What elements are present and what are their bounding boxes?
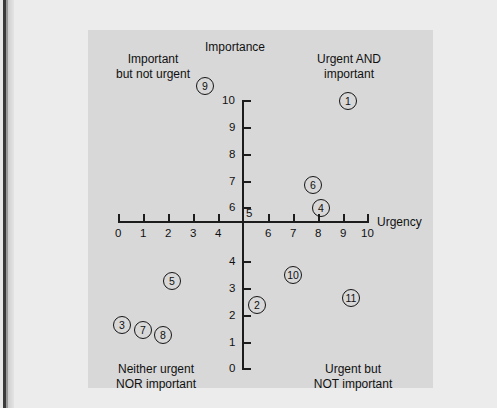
data-point-8[interactable]: 8	[154, 326, 172, 344]
x-tick-label-3: 3	[190, 228, 196, 240]
y-tick-10	[243, 100, 251, 102]
x-tick-label-4: 4	[215, 228, 221, 240]
x-tick-9	[343, 214, 345, 222]
x-tick-label-6: 6	[265, 228, 271, 240]
x-tick-label-2: 2	[165, 228, 171, 240]
y-tick-3	[243, 288, 251, 290]
y-axis-line	[242, 100, 244, 370]
x-tick-1	[143, 214, 145, 222]
scatter-plot: 0 1 2 3 4 6 7 8 9 10 10 9 8 7 6 4 3 2 1 …	[0, 0, 497, 408]
x-tick-label-7: 7	[290, 228, 296, 240]
y-tick-0	[243, 368, 251, 370]
x-tick-label-1: 1	[140, 228, 146, 240]
origin-label-5: 5	[246, 208, 252, 220]
data-point-10[interactable]: 10	[284, 266, 302, 284]
data-point-6[interactable]: 6	[304, 176, 322, 194]
quadrant-label-bottom-left: Neither urgent NOR important	[98, 362, 214, 391]
x-tick-label-10: 10	[361, 228, 374, 240]
quadrant-label-top-left: Important but not urgent	[98, 52, 208, 81]
x-tick-6	[268, 214, 270, 222]
data-point-7[interactable]: 7	[134, 321, 152, 339]
y-tick-label-4: 4	[229, 256, 235, 268]
x-tick-7	[293, 214, 295, 222]
y-tick-7	[243, 181, 251, 183]
x-tick-0	[118, 214, 120, 222]
data-point-3[interactable]: 3	[113, 316, 131, 334]
y-axis-title: Importance	[205, 41, 265, 53]
y-tick-label-6: 6	[229, 202, 235, 214]
y-tick-label-9: 9	[229, 122, 235, 134]
figure-page: 0 1 2 3 4 6 7 8 9 10 10 9 8 7 6 4 3 2 1 …	[0, 0, 497, 408]
x-axis-title: Urgency	[377, 216, 422, 228]
y-tick-label-2: 2	[229, 310, 235, 322]
x-tick-label-0: 0	[115, 228, 121, 240]
data-point-11[interactable]: 11	[342, 289, 360, 307]
x-tick-label-9: 9	[340, 228, 346, 240]
data-point-1[interactable]: 1	[339, 92, 357, 110]
y-tick-label-1: 1	[229, 337, 235, 349]
y-tick-8	[243, 154, 251, 156]
x-tick-10	[367, 214, 369, 222]
y-tick-label-0: 0	[229, 363, 235, 375]
data-point-4[interactable]: 4	[312, 199, 330, 217]
y-tick-label-8: 8	[229, 149, 235, 161]
y-tick-9	[243, 127, 251, 129]
data-point-2[interactable]: 2	[248, 296, 266, 314]
x-tick-4	[218, 214, 220, 222]
y-tick-label-10: 10	[222, 95, 235, 107]
y-tick-4	[243, 261, 251, 263]
data-point-5[interactable]: 5	[163, 272, 181, 290]
x-tick-label-8: 8	[315, 228, 321, 240]
data-point-9[interactable]: 9	[196, 77, 214, 95]
y-tick-label-7: 7	[229, 176, 235, 188]
y-tick-1	[243, 342, 251, 344]
x-tick-3	[193, 214, 195, 222]
x-tick-2	[168, 214, 170, 222]
quadrant-label-bottom-right: Urgent but NOT important	[297, 362, 409, 391]
y-tick-label-3: 3	[229, 283, 235, 295]
quadrant-label-top-right: Urgent AND important	[297, 52, 401, 81]
y-tick-2	[243, 315, 251, 317]
